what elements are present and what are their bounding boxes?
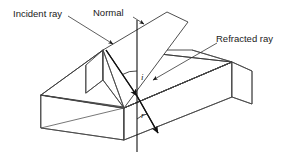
block-interior-edge-10 (86, 80, 103, 93)
incident-ray-leader (68, 16, 113, 44)
normal-plane-surface (103, 12, 188, 108)
normal-label: Normal (93, 7, 124, 18)
block-interior-diagonal-right (232, 62, 252, 71)
normal-plane (103, 12, 188, 108)
block-interior-diagonal-left (41, 108, 124, 128)
block-interior-edge-1 (41, 95, 124, 108)
refracted-ray-label: Refracted ray (216, 33, 273, 44)
block-interior-diagonal-right-2 (232, 97, 252, 104)
incident-ray-label: Incident ray (13, 8, 62, 19)
normal-leader (133, 17, 144, 24)
refraction-illustration: i r Incident ray Normal Refracted ray (0, 0, 281, 168)
angle-of-refraction-label: r (141, 110, 145, 120)
block-interior-edge-4 (41, 128, 124, 140)
refraction-diagram: i r Incident ray Normal Refracted ray (0, 0, 281, 168)
